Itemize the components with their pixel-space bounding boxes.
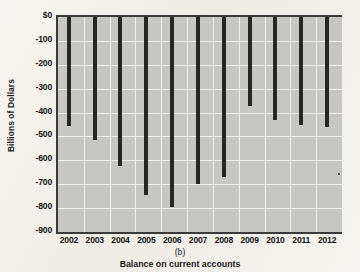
bar-2010 <box>273 17 277 120</box>
bar-2002 <box>67 17 71 126</box>
gridline-vertical <box>161 17 162 232</box>
x-tick-label-2002: 2002 <box>60 235 78 245</box>
gridline-vertical <box>265 17 266 232</box>
bar-2005 <box>144 17 148 195</box>
y-tick-label: -800 <box>36 201 52 211</box>
gridline-vertical <box>316 17 317 232</box>
bar-2003 <box>93 17 97 140</box>
x-tick-label-2004: 2004 <box>111 235 129 245</box>
y-tick-label: -600 <box>36 153 52 163</box>
y-axis-tick-labels: $0-100-200-300-400-500-600-700-800-900 <box>18 15 54 232</box>
gridline-vertical <box>135 17 136 232</box>
x-tick-label-2009: 2009 <box>240 235 258 245</box>
gridline-vertical <box>187 17 188 232</box>
x-tick-label-2012: 2012 <box>318 235 336 245</box>
plot-area <box>56 15 342 232</box>
panel-label: (b) <box>0 247 360 257</box>
bar-2004 <box>118 17 122 166</box>
x-tick-label-2011: 2011 <box>292 235 310 245</box>
bar-2007 <box>196 17 200 184</box>
y-tick-label: -700 <box>36 177 52 187</box>
y-tick-label: -500 <box>36 129 52 139</box>
y-tick-label: -300 <box>36 82 52 92</box>
y-tick-label: -900 <box>36 225 52 235</box>
x-tick-label-2008: 2008 <box>215 235 233 245</box>
gridline-vertical <box>290 17 291 232</box>
x-tick-label-2003: 2003 <box>86 235 104 245</box>
bar-2012 <box>325 17 329 127</box>
bar-2011 <box>299 17 303 125</box>
gridline-vertical <box>213 17 214 232</box>
y-tick-label: -400 <box>36 106 52 116</box>
x-tick-label-2007: 2007 <box>189 235 207 245</box>
x-tick-label-2010: 2010 <box>266 235 284 245</box>
y-axis-title-text: Billions of Dollars <box>6 79 16 152</box>
gridline-horizontal <box>58 184 342 185</box>
chart-figure: Billions of Dollars $0-100-200-300-400-5… <box>0 0 360 272</box>
bar-2008 <box>222 17 226 177</box>
chart-caption: Balance on current accounts <box>0 259 360 269</box>
x-tick-label-2006: 2006 <box>163 235 181 245</box>
x-axis-tick-labels: 2002200320042005200620072008200920102011… <box>56 235 342 247</box>
gridline-horizontal <box>58 208 342 209</box>
y-tick-label: $0 <box>43 10 52 20</box>
gridline-vertical <box>110 17 111 232</box>
y-tick-label: -200 <box>36 58 52 68</box>
x-axis-line <box>56 232 342 234</box>
x-tick-label-2005: 2005 <box>137 235 155 245</box>
y-tick-label: -100 <box>36 34 52 44</box>
bar-2009 <box>248 17 252 106</box>
gridline-vertical <box>84 17 85 232</box>
gridline-horizontal <box>58 136 342 137</box>
bar-2006 <box>170 17 174 207</box>
gridline-vertical <box>239 17 240 232</box>
scan-speck <box>338 173 340 175</box>
gridline-horizontal <box>58 160 342 161</box>
